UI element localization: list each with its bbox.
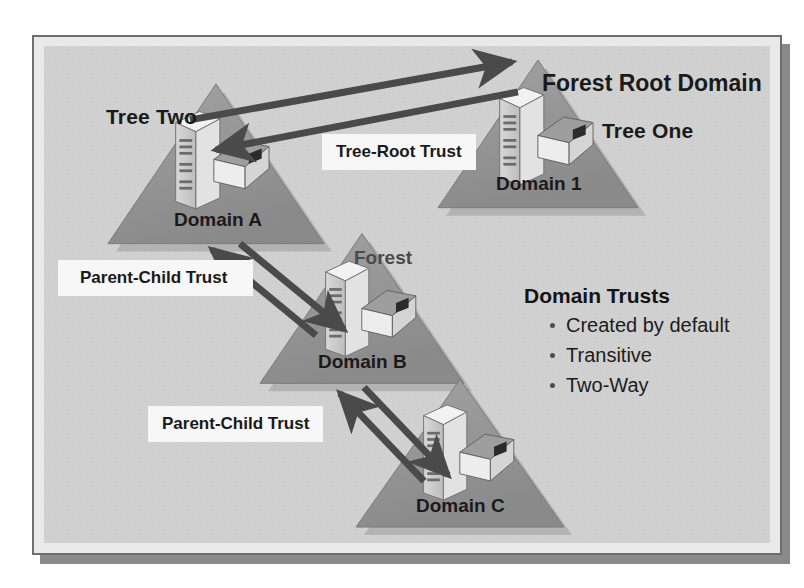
- domain-trusts-bullet: Transitive: [550, 344, 729, 367]
- domain-label-domain-c: Domain C: [416, 496, 505, 515]
- tree-one-label: Tree One: [602, 120, 693, 141]
- domain-trusts-block: Domain Trusts Created by default Transit…: [524, 284, 729, 404]
- trust-label-parent-child-bc[interactable]: Parent-Child Trust: [148, 406, 323, 442]
- domain-trusts-bullet: Two-Way: [550, 374, 729, 397]
- domain-trusts-title: Domain Trusts: [524, 284, 729, 308]
- domain-label-domain-1: Domain 1: [496, 174, 582, 193]
- trust-label-tree-root[interactable]: Tree-Root Trust: [322, 134, 476, 170]
- server-icon-domain-1: [500, 88, 544, 185]
- slide-frame: Forest Root Domain Tree One Tree Two For…: [32, 35, 782, 555]
- slide-canvas: Forest Root Domain Tree One Tree Two For…: [44, 46, 770, 543]
- domain-trusts-list: Created by default Transitive Two-Way: [524, 314, 729, 397]
- domain-trusts-bullet: Created by default: [550, 314, 729, 337]
- trust-label-parent-child-ab[interactable]: Parent-Child Trust: [58, 260, 253, 296]
- trust-arrow-tree-root-up[interactable]: [190, 62, 512, 120]
- forest-root-domain-label: Forest Root Domain: [542, 72, 762, 95]
- domain-label-domain-b: Domain B: [318, 352, 407, 371]
- tree-two-label: Tree Two: [106, 106, 197, 127]
- diagram-root: Forest Root Domain Tree One Tree Two For…: [0, 0, 804, 588]
- domain-label-domain-a: Domain A: [174, 210, 262, 229]
- forest-label: Forest: [354, 248, 412, 267]
